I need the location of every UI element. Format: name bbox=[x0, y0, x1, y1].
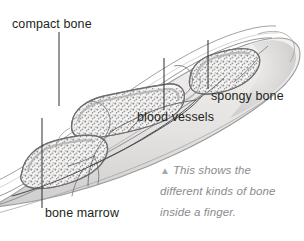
label-compact-bone: compact bone bbox=[12, 18, 92, 31]
caption-line-1-text: This shows the bbox=[173, 164, 251, 176]
caption-line-1: ▲This shows the bbox=[160, 160, 300, 181]
figure-page: compact bone spongy bone blood vessels b… bbox=[0, 0, 304, 241]
label-blood-vessels: blood vessels bbox=[137, 111, 214, 124]
caption-line-3: inside a finger. bbox=[160, 202, 300, 223]
label-spongy-bone: spongy bone bbox=[211, 90, 284, 103]
figure-caption: ▲This shows the different kinds of bone … bbox=[160, 160, 300, 223]
caption-line-2: different kinds of bone bbox=[160, 181, 300, 202]
triangle-up-icon: ▲ bbox=[160, 165, 170, 176]
label-bone-marrow: bone marrow bbox=[45, 207, 119, 220]
